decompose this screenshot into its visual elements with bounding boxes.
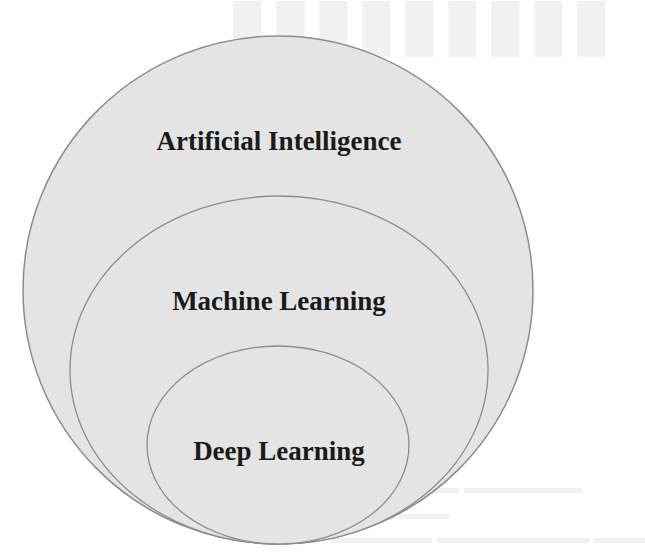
machine-learning-label: Machine Learning — [0, 288, 558, 315]
deep-learning-label: Deep Learning — [0, 438, 558, 465]
artificial-intelligence-label: Artificial Intelligence — [0, 128, 558, 155]
